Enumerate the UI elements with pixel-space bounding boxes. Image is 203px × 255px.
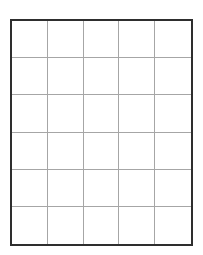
grid-cell	[84, 95, 120, 132]
grid-cell	[155, 207, 191, 244]
grid-cell	[119, 21, 155, 58]
grid-cell	[48, 21, 84, 58]
grid-cell	[84, 58, 120, 95]
grid-cell	[48, 133, 84, 170]
grid-cell	[84, 207, 120, 244]
grid-cell	[84, 170, 120, 207]
grid-cell	[84, 133, 120, 170]
grid-cell	[119, 170, 155, 207]
grid-cell	[12, 170, 48, 207]
grid-cell	[48, 170, 84, 207]
grid-cell	[119, 133, 155, 170]
grid-cell	[155, 95, 191, 132]
grid-cell	[12, 21, 48, 58]
grid-cell	[12, 58, 48, 95]
grid-cell	[119, 207, 155, 244]
grid-cell	[12, 133, 48, 170]
grid-cell	[155, 21, 191, 58]
grid-cell	[48, 58, 84, 95]
grid-cell	[119, 58, 155, 95]
grid-cell	[155, 133, 191, 170]
grid-cell	[48, 207, 84, 244]
empty-grid-table	[10, 19, 193, 246]
grid-cell	[155, 170, 191, 207]
grid-cell	[12, 207, 48, 244]
grid-cell	[12, 95, 48, 132]
grid-cell	[155, 58, 191, 95]
grid-cell	[119, 95, 155, 132]
grid-cell	[48, 95, 84, 132]
grid-cell	[84, 21, 120, 58]
